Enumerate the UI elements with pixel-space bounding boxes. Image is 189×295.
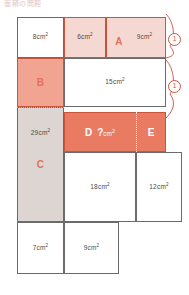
region-label-unknown: ?cm2: [97, 127, 115, 138]
marker-1-upper-value: 1: [173, 36, 177, 43]
region-label-29cm2: 29cm2: [31, 130, 50, 137]
region-label-9cm2-bottom: 9cm2: [84, 245, 100, 252]
dotted-boundary-C-top: [17, 107, 64, 108]
region-label-7cm2: 7cm2: [33, 245, 49, 252]
diagram-caption: 面積の問題: [4, 0, 42, 8]
region-label-12cm2: 12cm2: [149, 184, 168, 191]
region-C: 29cm2 C: [17, 107, 64, 222]
marker-1-lower-value: 1: [173, 83, 177, 90]
region-label-A: A: [107, 31, 131, 49]
region-label-E: E: [148, 127, 155, 138]
region-label-C: C: [37, 159, 45, 170]
marker-1-upper: 1: [168, 33, 181, 46]
region-label-D: D: [85, 127, 92, 138]
region-label-6cm2: 6cm2: [77, 34, 93, 41]
region-label-18cm2: 18cm2: [90, 184, 109, 191]
region-label-9cm2: 9cm2: [137, 34, 153, 41]
region-D: D ?cm2: [64, 112, 136, 152]
region-B: B: [17, 58, 64, 107]
region-6cm2: 6cm2: [64, 17, 106, 58]
region-label-B: B: [37, 77, 45, 88]
region-18cm2: 18cm2: [64, 152, 136, 222]
region-label-8cm2: 8cm2: [33, 34, 49, 41]
region-7cm2: 7cm2: [17, 222, 64, 274]
marker-1-lower: 1: [168, 80, 181, 93]
region-8cm2: 8cm2: [17, 17, 64, 58]
region-12cm2: 12cm2: [136, 152, 182, 222]
region-label-15cm2: 15cm2: [105, 79, 124, 86]
region-9cm2-bottom: 9cm2: [64, 222, 119, 274]
area-puzzle-diagram: 面積の問題 8cm2 6cm2 9cm2 A B 15cm2 29cm2 C D…: [0, 0, 189, 295]
region-15cm2: 15cm2: [64, 58, 166, 107]
brace-curves: [160, 12, 189, 122]
